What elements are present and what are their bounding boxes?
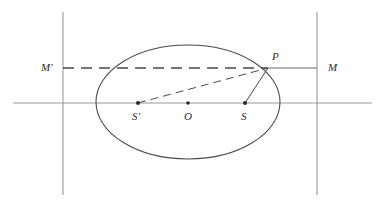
focus-left-point: [136, 101, 140, 105]
ellipse-diagram-canvas: [0, 0, 385, 202]
centre-point: [186, 101, 190, 105]
label-centre: O: [184, 111, 192, 122]
ellipse-figure: M′ M P S′ O S: [0, 0, 385, 202]
label-left-directrix: M′: [41, 62, 53, 73]
label-focus-right: S: [241, 111, 247, 122]
label-focus-left: S′: [132, 111, 140, 122]
label-point-p: P: [272, 51, 279, 62]
label-right-directrix: M: [328, 62, 337, 73]
focus-right-point: [243, 101, 247, 105]
solid-focal-radius-right: [245, 68, 268, 103]
